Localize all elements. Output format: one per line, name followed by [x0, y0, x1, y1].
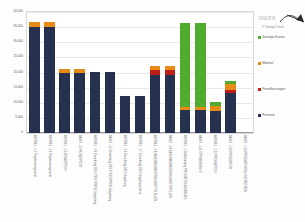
- bar-segment-personal[interactable]: [150, 75, 161, 133]
- legend-label: Personal: [262, 114, 274, 117]
- bar-series-group: [27, 12, 253, 133]
- x-axis-tick-label: ARTIKEL - 1.8 DATENMIGRATION/SCHNITTSTEL…: [153, 135, 156, 201]
- brand-tagline: IT Strategie Trends: [262, 26, 284, 29]
- y-tick-label: 30.000: [14, 41, 23, 44]
- x-axis-tick-label: BASIS - 1.11 OPTIMIERUNG E: [198, 135, 201, 173]
- x-axis-tick-label: BASIS - 1.5 Einrichtung DEV-/TEST-/PROD-…: [108, 135, 111, 201]
- legend-panel: nuxx IT Strategie Trends Sonstige Kosten…: [256, 9, 305, 135]
- bar-column[interactable]: [105, 72, 116, 133]
- bar-column[interactable]: [120, 96, 131, 133]
- legend-label: Material: [262, 62, 273, 65]
- y-tick-label: 10.000: [14, 101, 23, 104]
- x-axis-tick-label: BASIS - 1.14 PRODUKTIVROLLOUT/BETRIEB: [243, 135, 246, 192]
- bar-segment-personal[interactable]: [59, 73, 70, 133]
- x-axis-tick-label: BASIS - 1.9 DATENMIGRATION/SCHNITTSTELLE…: [168, 135, 171, 198]
- bar-segment-personal[interactable]: [105, 72, 116, 133]
- bar-segment-personal[interactable]: [210, 111, 221, 133]
- x-axis-tick-label: ARTIKEL - 1.7 Einrichtung DEV-Umgebung I…: [138, 135, 141, 194]
- y-tick-label: 35.000: [14, 25, 23, 28]
- bar-segment-personal[interactable]: [135, 96, 146, 133]
- y-tick-label: 20.000: [14, 71, 23, 74]
- chart-page: 40.00035.00030.00025.00020.00015.00010.0…: [0, 0, 305, 222]
- x-axis-tick-label: ARTIKEL - 1.6 Einrichtung DEV-Umgebung: [123, 135, 126, 187]
- bar-column[interactable]: [135, 96, 146, 133]
- bar-column[interactable]: [195, 23, 206, 133]
- y-tick-label: 40.000: [14, 10, 23, 13]
- bar-column[interactable]: [74, 69, 85, 133]
- bar-segment-personal[interactable]: [195, 110, 206, 133]
- brand-logo: nuxx IT Strategie Trends: [259, 12, 303, 32]
- y-tick-label: 25.000: [14, 56, 23, 59]
- x-axis-tick-label: ARTIKEL - 1.3 KONZEPTION: [63, 135, 66, 170]
- x-axis-tick-label: ARTIKEL - 1.10 Anbindung PRODUKTIVUMGEBU…: [183, 135, 186, 199]
- y-tick-label: 15.000: [14, 86, 23, 89]
- bar-segment-personal[interactable]: [29, 27, 40, 133]
- legend-swatch-icon: [258, 114, 261, 117]
- x-axis-tick-label: ARTIKEL - 1.2 Projektmanagement: [48, 135, 51, 177]
- x-axis-tick-label: BASIS - 1.13 PRODUKTION: [228, 135, 231, 169]
- x-axis-labels: ARTIKEL - 1.1 ProjektmanagementARTIKEL -…: [27, 135, 253, 221]
- bar-segment-personal[interactable]: [74, 73, 85, 133]
- legend-swatch-icon: [258, 62, 261, 65]
- bar-column[interactable]: [29, 22, 40, 133]
- legend-item[interactable]: Personal: [258, 114, 274, 117]
- x-axis-tick-label: BASIS - 1.2 KONZEPTION: [78, 135, 81, 167]
- legend-label: Sonstige Kosten: [262, 36, 285, 39]
- bar-column[interactable]: [225, 81, 236, 133]
- legend-item[interactable]: Sonstige Kosten: [258, 36, 285, 39]
- bar-column[interactable]: [59, 69, 70, 133]
- y-tick-label: 5.000: [15, 116, 23, 119]
- brand-wordmark: nuxx: [259, 14, 276, 22]
- bar-column[interactable]: [165, 66, 176, 133]
- x-axis-tick-label: ARTIKEL - 1.12 PRODUKTION: [213, 135, 216, 172]
- bar-segment-sonstige-kosten[interactable]: [180, 23, 191, 107]
- y-tick-label: 0: [21, 131, 23, 134]
- legend-swatch-icon: [258, 36, 261, 39]
- bar-column[interactable]: [90, 72, 101, 133]
- legend-item[interactable]: Material: [258, 62, 273, 65]
- bar-segment-sonstige-kosten[interactable]: [195, 23, 206, 107]
- bar-segment-personal[interactable]: [44, 27, 55, 133]
- bar-segment-personal[interactable]: [120, 96, 131, 133]
- bar-segment-personal[interactable]: [90, 72, 101, 133]
- bar-segment-personal[interactable]: [180, 110, 191, 133]
- bar-segment-personal[interactable]: [225, 93, 236, 133]
- legend-item[interactable]: Fremdleistungen: [258, 88, 285, 91]
- bar-column[interactable]: [180, 23, 191, 133]
- bar-column[interactable]: [44, 22, 55, 133]
- bar-column[interactable]: [210, 102, 221, 133]
- legend-label: Fremdleistungen: [262, 88, 285, 91]
- legend-swatch-icon: [258, 88, 261, 91]
- x-axis-tick-label: ARTIKEL - 1.4 Einrichtung DEV-/TEST-/PRO…: [93, 135, 96, 204]
- x-axis-tick-label: ARTIKEL - 1.1 Projektmanagement: [33, 135, 36, 177]
- bar-column[interactable]: [150, 66, 161, 133]
- swoosh-icon: [279, 13, 305, 24]
- y-axis: 40.00035.00030.00025.00020.00015.00010.0…: [0, 11, 25, 134]
- bar-segment-personal[interactable]: [165, 75, 176, 133]
